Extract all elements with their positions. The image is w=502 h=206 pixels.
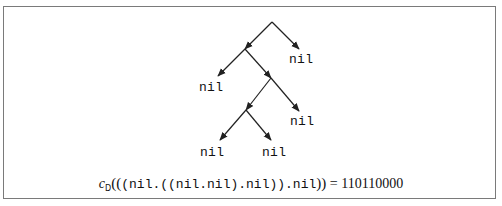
- leaf-a-left: nil: [199, 81, 223, 94]
- edge-root-left: [245, 22, 272, 49]
- caption-equals: =: [330, 176, 338, 191]
- edge-b-right: [271, 78, 299, 111]
- edge-c-right: [246, 110, 271, 140]
- edge-b-left: [246, 78, 271, 110]
- edge-a-right: [245, 49, 271, 78]
- leaf-c-left: nil: [200, 146, 224, 159]
- caption-open-paren: ((: [111, 175, 121, 191]
- leaf-c-right: nil: [262, 146, 286, 159]
- caption-close-paren: )): [316, 175, 326, 191]
- edge-root-right: [272, 22, 299, 49]
- caption-argument: (nil.((nil.nil).nil)).nil: [121, 177, 316, 192]
- leaf-root-right: nil: [289, 53, 313, 66]
- leaf-b-right: nil: [290, 115, 314, 128]
- edge-a-left: [218, 49, 245, 76]
- caption-result: 110110000: [341, 176, 403, 191]
- figure-caption: cD(((nil.((nil.nil).nil)).nil)) = 110110…: [0, 176, 502, 193]
- edge-c-left: [220, 110, 246, 140]
